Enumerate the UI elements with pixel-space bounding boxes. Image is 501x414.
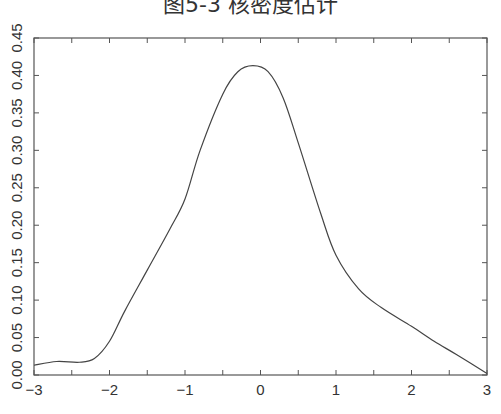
x-tick-label: 3: [483, 381, 491, 398]
x-tick-label: 0: [256, 381, 264, 398]
plot-frame: [34, 38, 487, 375]
plot-border: [34, 38, 487, 375]
x-tick-label: −1: [176, 381, 193, 398]
y-tick-label: 0.35: [8, 98, 25, 127]
y-tick-label: 0.10: [8, 286, 25, 315]
density-curve: [34, 66, 487, 374]
y-tick-label: 0.40: [8, 61, 25, 90]
x-tick-label: −3: [25, 381, 42, 398]
tick-labels: −3−2−101230.000.050.100.150.200.250.300.…: [8, 23, 491, 398]
x-tick-label: 1: [332, 381, 340, 398]
y-tick-label: 0.45: [8, 23, 25, 52]
y-tick-label: 0.25: [8, 173, 25, 202]
y-tick-label: 0.05: [8, 323, 25, 352]
y-tick-label: 0.20: [8, 211, 25, 240]
axis-ticks: [34, 38, 487, 375]
y-tick-label: 0.00: [8, 360, 25, 389]
x-tick-label: 2: [407, 381, 415, 398]
x-tick-label: −2: [101, 381, 118, 398]
y-tick-label: 0.30: [8, 136, 25, 165]
density-chart: −3−2−101230.000.050.100.150.200.250.300.…: [0, 0, 501, 414]
y-tick-label: 0.15: [8, 248, 25, 277]
